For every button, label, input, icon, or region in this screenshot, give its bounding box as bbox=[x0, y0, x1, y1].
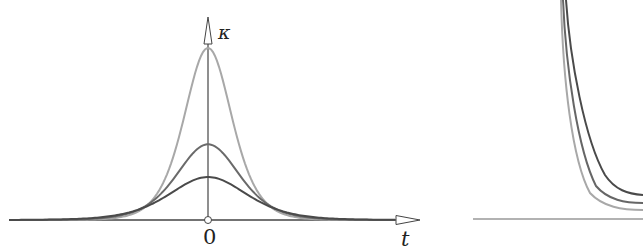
right-chart bbox=[473, 0, 643, 219]
x-axis-arrow-icon bbox=[396, 216, 420, 225]
origin-label: 0 bbox=[203, 225, 216, 249]
curve-medium bbox=[9, 144, 395, 220]
curvature-figure: 0 κ t bbox=[0, 0, 643, 251]
y-axis-label: κ bbox=[217, 21, 231, 43]
curve-light bbox=[9, 48, 395, 220]
y-axis-arrow-icon bbox=[204, 17, 212, 44]
x-axis-label: t bbox=[401, 227, 410, 251]
right-curve-dark bbox=[566, 0, 643, 195]
left-chart: 0 κ t bbox=[9, 17, 420, 251]
curve-dark bbox=[9, 177, 395, 220]
origin-marker bbox=[205, 217, 212, 224]
